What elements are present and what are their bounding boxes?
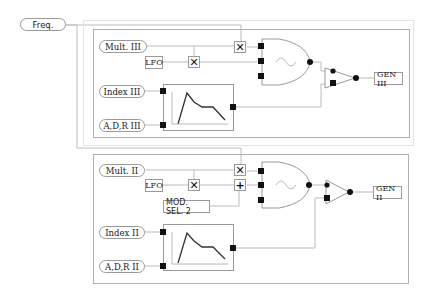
amp-gen3 xyxy=(325,68,355,88)
multiply-icon-mult-gen3: ✕ xyxy=(234,41,246,53)
lfo-gen2-box[interactable]: LFO xyxy=(145,179,163,192)
envelope-curve-gen3 xyxy=(178,93,225,124)
adr-gen3-input[interactable]: A,D,R III xyxy=(99,119,145,132)
adr-gen2-input[interactable]: A,D,R II xyxy=(99,260,145,273)
freq-input[interactable]: Freq. xyxy=(20,18,66,31)
gen3-output: GEN III xyxy=(374,72,403,85)
multiply-icon-lfo-gen3: ✕ xyxy=(188,56,200,68)
freq-wire-gen3 xyxy=(65,25,241,43)
multiply-icon-lfo-gen2: ✕ xyxy=(188,179,200,191)
envelope-curve-gen2 xyxy=(178,233,225,263)
multiply-icon-mult-gen2: ✕ xyxy=(234,164,246,176)
mod-sel-2-box[interactable]: MOD. SEL. 2 xyxy=(163,200,210,213)
wiring-diagram xyxy=(0,0,427,295)
index-gen3-input[interactable]: Index III xyxy=(99,85,145,98)
lfo-gen3-box[interactable]: LFO xyxy=(145,56,163,69)
index-gen2-input[interactable]: Index II xyxy=(99,226,145,239)
add-icon-gen2: + xyxy=(234,179,246,191)
mult-gen2-input[interactable]: Mult. II xyxy=(99,164,145,177)
mult-gen3-input[interactable]: Mult. III xyxy=(99,40,147,53)
gen2-output: GEN II xyxy=(373,186,402,199)
